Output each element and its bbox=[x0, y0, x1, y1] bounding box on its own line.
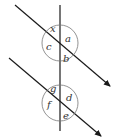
angle-label-c: c bbox=[46, 41, 52, 52]
angle-label-x: x bbox=[50, 23, 56, 34]
angle-label-b: b bbox=[63, 53, 69, 64]
lower-parallel-line bbox=[9, 58, 101, 136]
upper-parallel-line bbox=[15, 5, 110, 86]
angle-label-g: g bbox=[50, 83, 56, 94]
angle-label-f: f bbox=[46, 99, 53, 110]
angle-label-a: a bbox=[65, 33, 71, 44]
angle-label-e: e bbox=[63, 110, 69, 121]
angle-diagram: x a c b g d f e bbox=[0, 0, 122, 139]
angle-label-d: d bbox=[66, 92, 72, 103]
